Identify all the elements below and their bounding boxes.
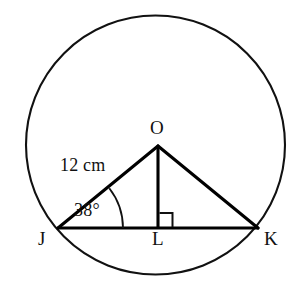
geometry-canvas: [0, 0, 295, 294]
vertex-label-J: J: [38, 229, 45, 248]
vertex-label-O: O: [150, 118, 164, 137]
vertex-label-L: L: [152, 229, 164, 248]
vertex-label-K: K: [264, 229, 278, 248]
right-angle-marker-icon: [160, 213, 173, 227]
angle-arc-marker-icon: [109, 188, 123, 228]
radius-measure-label: 12 cm: [60, 156, 106, 174]
angle-measure-label: 38°: [74, 201, 100, 219]
geometry-diagram: O J L K 12 cm 38°: [0, 0, 295, 294]
